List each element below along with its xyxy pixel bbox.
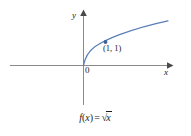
sqrt-curve xyxy=(84,21,169,66)
radical-expression: √x xyxy=(101,113,112,123)
y-axis-arrowhead xyxy=(80,10,87,17)
y-axis-label: y xyxy=(72,11,76,20)
x-axis-label: x xyxy=(164,68,168,77)
point-annotation-label: (1, 1) xyxy=(103,44,121,53)
function-graph-figure: y x 0 (1, 1) f(x)=√x xyxy=(0,0,191,136)
radicand: x xyxy=(106,111,111,123)
function-caption: f(x)=√x xyxy=(0,113,191,123)
equals-sign: = xyxy=(93,112,101,123)
origin-label: 0 xyxy=(85,66,90,75)
